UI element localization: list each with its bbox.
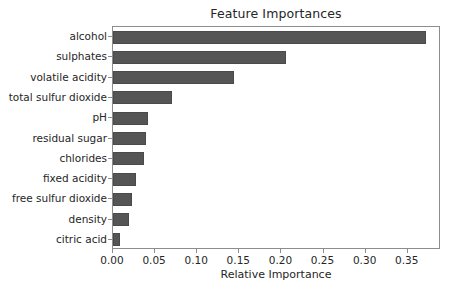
bar-chlorides — [113, 152, 144, 165]
bar-citric-acid — [113, 233, 120, 246]
bar-residual-sugar — [113, 132, 146, 145]
x-tick-label-0.15: 0.15 — [227, 254, 250, 266]
bar-row — [113, 108, 439, 128]
bar-alcohol — [113, 31, 426, 44]
bar-density — [113, 213, 129, 226]
plot-area — [112, 26, 440, 249]
bar-row — [113, 169, 439, 189]
bar-row — [113, 128, 439, 148]
bars-layer — [113, 27, 439, 248]
x-tick-label-0.05: 0.05 — [142, 254, 165, 266]
x-tick-label-0.10: 0.10 — [185, 254, 208, 266]
bar-row — [113, 230, 439, 250]
bar-fixed-acidity — [113, 173, 136, 186]
chart-title: Feature Importances — [112, 6, 440, 21]
x-tick-label-0.20: 0.20 — [269, 254, 292, 266]
x-tick-mark — [112, 249, 113, 253]
bar-row — [113, 27, 439, 47]
x-tick-mark — [365, 249, 366, 253]
bar-row — [113, 209, 439, 229]
bar-row — [113, 88, 439, 108]
x-tick-mark — [238, 249, 239, 253]
x-tick-mark — [154, 249, 155, 253]
bar-volatile-acidity — [113, 71, 234, 84]
x-tick-label-0.00: 0.00 — [100, 254, 123, 266]
x-tick-mark — [323, 249, 324, 253]
x-tick-mark — [196, 249, 197, 253]
x-axis-ticks: 0.000.050.100.150.200.250.300.35 — [112, 249, 442, 269]
bar-pH — [113, 112, 148, 125]
bar-total-sulfur-dioxide — [113, 91, 172, 104]
x-axis-title: Relative Importance — [112, 268, 440, 281]
x-tick-label-0.35: 0.35 — [395, 254, 418, 266]
figure-canvas: Feature Importances alcoholsulphatesvola… — [0, 0, 454, 294]
bar-free-sulfur-dioxide — [113, 193, 132, 206]
bar-sulphates — [113, 51, 286, 64]
x-tick-label-0.30: 0.30 — [353, 254, 376, 266]
x-tick-mark — [280, 249, 281, 253]
bar-row — [113, 149, 439, 169]
bar-row — [113, 189, 439, 209]
y-axis-ticks — [0, 26, 112, 249]
bar-row — [113, 47, 439, 67]
x-tick-mark — [407, 249, 408, 253]
bar-row — [113, 68, 439, 88]
x-tick-label-0.25: 0.25 — [311, 254, 334, 266]
